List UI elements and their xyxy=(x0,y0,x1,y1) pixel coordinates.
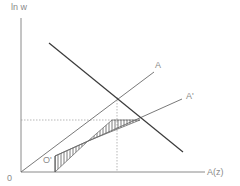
line-a-prime-label: A' xyxy=(186,91,194,101)
y-axis-label: ln w xyxy=(11,2,28,12)
x-axis-label: A(z) xyxy=(207,167,224,177)
line-a-label: A xyxy=(155,60,161,70)
shifted-origin-label: O' xyxy=(43,155,52,165)
diagram-canvas: ln w 0 A(z) A A' O' xyxy=(0,0,240,186)
line-a-prime xyxy=(55,99,182,156)
origin-label: 0 xyxy=(7,173,12,183)
hatched-region-lower xyxy=(55,141,88,172)
